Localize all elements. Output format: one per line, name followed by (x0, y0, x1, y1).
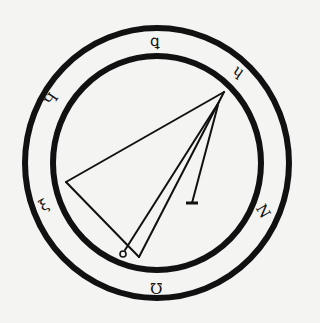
outer-ring (25, 28, 289, 298)
glyph-top: ꝗ (150, 34, 160, 49)
apex-to-small-circle (125, 102, 219, 250)
glyph-bottom: Ω (150, 280, 162, 295)
apex-to-crossbar (192, 105, 218, 203)
small-circle (120, 251, 126, 257)
inner-ring (53, 56, 261, 270)
